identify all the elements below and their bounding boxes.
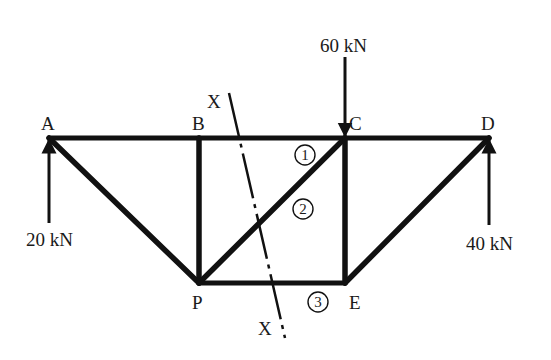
node-label-d: D — [481, 113, 495, 134]
node-label-e: E — [349, 292, 361, 313]
node-label-a: A — [41, 113, 55, 134]
section-line-x-x: XX — [207, 91, 285, 339]
section-label-top: X — [207, 91, 221, 112]
load-label-a: 20 kN — [26, 229, 73, 250]
member-AP — [49, 138, 199, 283]
section-label-bottom: X — [258, 318, 272, 339]
truss-diagram: XX 60 kN20 kN40 kN 123 ABCDPE — [0, 0, 551, 360]
svg-text:3: 3 — [314, 294, 322, 310]
member-PC — [199, 138, 345, 283]
node-label-c: C — [349, 113, 362, 134]
member-marker-2: 2 — [293, 199, 313, 219]
node-label-p: P — [192, 292, 203, 313]
truss-members — [49, 138, 489, 283]
member-marker-3: 3 — [308, 292, 328, 312]
member-marker-1: 1 — [295, 145, 315, 165]
svg-text:2: 2 — [299, 201, 307, 217]
member-ED — [345, 138, 489, 283]
node-label-b: B — [192, 113, 205, 134]
section-line — [229, 93, 285, 338]
load-arrows: 60 kN20 kN40 kN — [26, 35, 513, 254]
load-label-c: 60 kN — [320, 35, 367, 56]
svg-text:1: 1 — [301, 147, 309, 163]
load-label-d: 40 kN — [466, 233, 513, 254]
